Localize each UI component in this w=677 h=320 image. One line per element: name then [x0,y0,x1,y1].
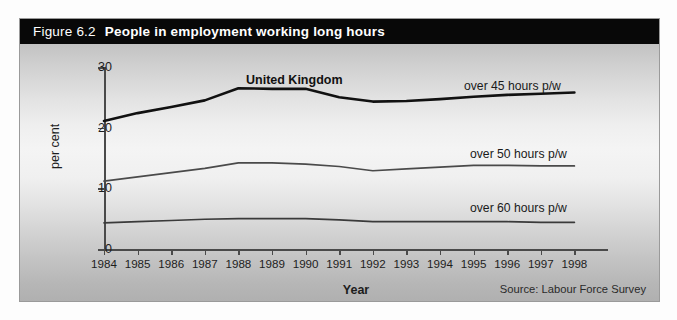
figure-panel: Figure 6.2 People in employment working … [19,18,660,302]
series-label-over-50-hours: over 50 hours p/w [470,147,567,161]
figure-number: Figure 6.2 [33,24,96,39]
series-label-over-45-hours: over 45 hours p/w [464,79,561,93]
source-note: Source: Labour Force Survey [500,283,646,295]
y-axis-title: per cent [48,124,62,169]
line-over-60-hours [104,219,574,223]
plot-area: United Kingdom 0102030 19841985198619871… [104,67,660,299]
line-over-45-hours [104,88,574,121]
series-label-over-60-hours: over 60 hours p/w [470,201,567,215]
figure-title-bar: Figure 6.2 People in employment working … [20,19,659,44]
data-lines [104,67,660,299]
line-over-50-hours [104,163,574,181]
figure-title: People in employment working long hours [105,24,385,39]
